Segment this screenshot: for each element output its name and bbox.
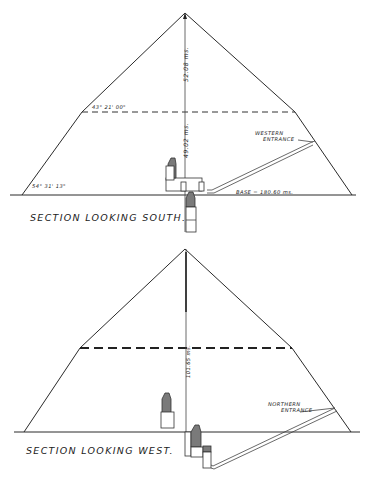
section-west: 101.65 ms. NORTHERN ENTRANCE SECTION LOO… [14, 249, 360, 469]
south-upper-angle-label: 43° 21' 00" [92, 104, 126, 110]
south-chamber-shaft [166, 166, 174, 180]
south-base-label: BASE = 180.60 ms. [236, 189, 293, 195]
south-total-height-label: 52.08 ms. [182, 47, 189, 82]
west-pyramid-outline [24, 249, 351, 432]
west-shaft [185, 432, 191, 456]
south-lower-angle-label: 54° 31' 13" [32, 183, 66, 189]
south-passage-lower [207, 145, 313, 193]
south-lower-height-label: 49.02 ms. [182, 123, 189, 158]
west-antechamber [203, 446, 211, 452]
south-chamber-pillar-2 [199, 182, 204, 191]
section-south: 52.08 ms. 49.02 ms. 43° 21' 00" 54° 31' … [10, 13, 356, 232]
west-entrance-label-2: ENTRANCE [281, 407, 313, 413]
west-passage-lower [211, 411, 337, 469]
west-passage-descent [203, 452, 211, 468]
south-pyramid-outline [22, 13, 352, 195]
south-section-caption: SECTION LOOKING SOUTH. [30, 212, 186, 223]
south-entrance-pointer [298, 140, 313, 142]
west-height-label: 101.65 ms. [185, 345, 191, 378]
south-entrance-label-2: ENTRANCE [263, 136, 295, 142]
pyramid-sections-drawing: 52.08 ms. 49.02 ms. 43° 21' 00" 54° 31' … [0, 0, 370, 479]
west-lower-corbelled-chamber [191, 425, 201, 447]
west-upper-chamber-base [161, 412, 174, 428]
west-section-caption: SECTION LOOKING WEST. [26, 445, 174, 456]
west-passage-upper [211, 408, 335, 466]
south-lower-shaft [186, 207, 196, 232]
west-lower-chamber-base [191, 447, 203, 457]
south-chamber-pillar-1 [181, 182, 186, 191]
west-upper-corbelled-chamber [162, 393, 171, 413]
south-passage-upper [207, 141, 315, 190]
south-corbelled-chamber-lower [186, 192, 195, 207]
